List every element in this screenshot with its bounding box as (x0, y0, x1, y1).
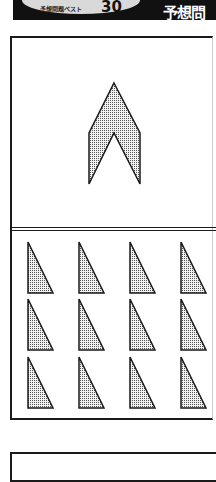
right-triangle-shape (130, 242, 155, 293)
right-triangle-shape (28, 242, 53, 293)
right-triangle-shape (130, 357, 155, 408)
right-triangle-shape (181, 242, 206, 293)
right-triangle-shape (79, 242, 104, 293)
right-triangle-shape (79, 299, 104, 350)
right-triangle-shape (130, 299, 155, 350)
chevron-arrow-shape (89, 83, 140, 184)
triangle-grid (28, 242, 206, 408)
right-triangle-shape (28, 299, 53, 350)
right-triangle-shape (181, 299, 206, 350)
right-triangle-shape (28, 357, 53, 408)
right-triangle-shape (79, 357, 104, 408)
right-triangle-shape (181, 357, 206, 408)
